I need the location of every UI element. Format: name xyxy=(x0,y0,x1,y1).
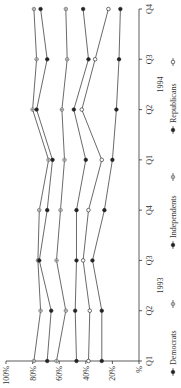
legend-item: Democrats xyxy=(169,300,178,376)
value-tick-label: % xyxy=(135,366,144,373)
category-tick-label: Q2 xyxy=(145,306,154,316)
filled-circle-marker-icon xyxy=(119,7,123,11)
legend-label: Independents xyxy=(169,195,178,238)
legend-label: Republicans xyxy=(169,83,178,123)
filled-circle-marker-icon xyxy=(45,208,49,212)
filled-circle-marker-icon xyxy=(75,259,79,263)
filled-circle-marker-icon xyxy=(103,208,107,212)
filled-circle-marker-icon xyxy=(117,57,121,61)
legend-item: Independents xyxy=(169,173,178,249)
filled-circle-marker-icon xyxy=(75,359,79,363)
legend-item: Republicans xyxy=(169,58,178,134)
series-line xyxy=(33,9,49,361)
open-circle-marker-icon xyxy=(93,57,97,61)
series-line xyxy=(74,9,89,361)
value-tick-label: 60% xyxy=(55,366,64,381)
filled-circle-marker-icon xyxy=(100,359,104,363)
series-line xyxy=(57,9,68,361)
series-line xyxy=(82,9,109,361)
filled-circle-marker-icon xyxy=(100,309,104,313)
category-tick-label: Q3 xyxy=(145,256,154,266)
value-tick-label: 80% xyxy=(29,366,38,381)
open-circle-marker-icon xyxy=(171,60,175,64)
category-tick-label: Q1 xyxy=(145,155,154,165)
filled-circle-marker-icon xyxy=(171,243,175,247)
filled-circle-marker-icon xyxy=(81,7,85,11)
open-circle-marker-icon xyxy=(87,359,91,363)
filled-circle-marker-icon xyxy=(91,259,95,263)
open-circle-marker-icon xyxy=(88,309,92,313)
series-line xyxy=(37,9,53,361)
filled-circle-marker-icon xyxy=(87,57,91,61)
filled-circle-marker-icon xyxy=(73,309,77,313)
open-circle-marker-icon xyxy=(107,7,111,11)
value-tick-label: 40% xyxy=(82,366,91,381)
data-series xyxy=(55,7,69,363)
value-axis-ticks: %20%40%60%80%100% xyxy=(2,361,144,385)
filled-circle-marker-icon xyxy=(39,7,43,11)
line-chart: %20%40%60%80%100% Q1Q2Q3Q4Q1Q2Q3Q4 19931… xyxy=(0,0,181,388)
series-group xyxy=(31,7,122,363)
year-label: 1993 xyxy=(156,278,165,294)
category-tick-label: Q4 xyxy=(145,205,154,215)
year-labels: 19931994 xyxy=(156,76,165,293)
open-circle-marker-icon xyxy=(100,158,104,162)
value-tick-label: 20% xyxy=(108,366,117,381)
category-tick-label: Q4 xyxy=(145,4,154,14)
value-tick-label: 100% xyxy=(2,366,11,385)
filled-circle-marker-icon xyxy=(45,57,49,61)
filled-circle-marker-icon xyxy=(37,259,41,263)
open-circle-marker-icon xyxy=(87,208,91,212)
legend: DemocratsIndependentsRepublicans xyxy=(169,58,178,376)
filled-circle-marker-icon xyxy=(171,370,175,374)
filled-circle-marker-icon xyxy=(171,128,175,132)
filled-circle-marker-icon xyxy=(35,108,39,112)
filled-circle-marker-icon xyxy=(111,158,115,162)
filled-circle-marker-icon xyxy=(49,309,53,313)
open-circle-marker-icon xyxy=(81,259,85,263)
data-series xyxy=(72,7,90,363)
category-tick-label: Q2 xyxy=(145,105,154,115)
filled-circle-marker-icon xyxy=(75,208,79,212)
filled-circle-marker-icon xyxy=(51,158,55,162)
filled-circle-marker-icon xyxy=(45,359,49,363)
legend-label: Democrats xyxy=(169,330,178,365)
year-label: 1994 xyxy=(156,76,165,92)
category-axis-ticks: Q1Q2Q3Q4Q1Q2Q3Q4 xyxy=(139,4,154,366)
filled-circle-marker-icon xyxy=(115,108,119,112)
data-series xyxy=(80,7,110,363)
series-line xyxy=(93,9,121,361)
filled-circle-marker-icon xyxy=(72,108,76,112)
category-tick-label: Q1 xyxy=(145,356,154,366)
filled-circle-marker-icon xyxy=(84,158,88,162)
open-circle-marker-icon xyxy=(80,108,84,112)
category-tick-label: Q3 xyxy=(145,54,154,64)
